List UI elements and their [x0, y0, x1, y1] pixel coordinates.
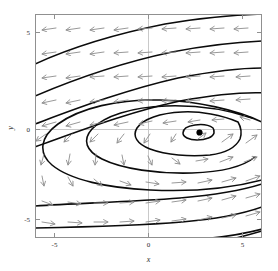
xtick-label-zero: 0 — [147, 241, 151, 249]
ytick-label-min: -5 — [24, 216, 30, 224]
y-axis-label: y — [6, 126, 15, 131]
xtick-label-min: -5 — [52, 241, 58, 249]
x-axis-label: x — [146, 255, 151, 264]
figure-background — [0, 0, 278, 271]
xtick-label-max: 5 — [241, 241, 245, 249]
plot-canvas: -5 0 5 -5 0 5 x y — [0, 0, 278, 271]
ytick-label-zero: 0 — [27, 126, 31, 134]
fixed-point-center-marker — [196, 129, 202, 135]
phase-portrait-figure: -5 0 5 -5 0 5 x y — [0, 0, 278, 271]
ytick-label-max: 5 — [27, 29, 31, 37]
